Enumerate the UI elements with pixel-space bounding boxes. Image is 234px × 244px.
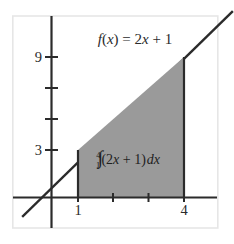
integral-differential-var: x [153, 152, 161, 167]
integral-upper-limit: 4 [96, 150, 101, 160]
area-under-curve-chart: 9 3 1 4 f(x) = 2x + 1 ∫14(2x + 1)dx [0, 0, 234, 244]
x-tick-label-1: 1 [74, 202, 81, 218]
y-tick-label-9: 9 [35, 49, 42, 65]
function-label: f(x) = 2x + 1 [98, 31, 172, 48]
function-label-equals: = 2 [119, 31, 142, 47]
integral-body-open: (2 [101, 152, 113, 168]
integral-body-close: + 1) [119, 152, 146, 168]
y-tick-label-3: 3 [35, 142, 42, 158]
function-label-tail: + 1 [149, 31, 172, 47]
x-tick-label-4: 4 [180, 202, 188, 218]
integral-lower-limit: 1 [96, 160, 100, 170]
figure-container: 9 3 1 4 f(x) = 2x + 1 ∫14(2x + 1)dx [0, 0, 234, 244]
